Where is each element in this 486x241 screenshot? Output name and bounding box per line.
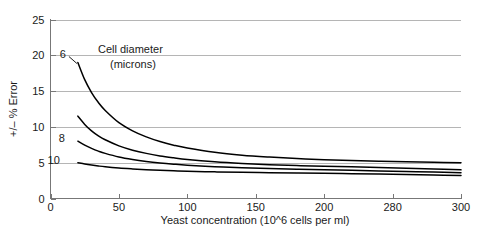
x-tick-marks-group: [52, 194, 462, 199]
y-tick-label-10: 10: [32, 121, 44, 133]
x-tick-labels-group: 050100150200280300: [47, 201, 470, 213]
curve-6: [78, 62, 461, 162]
series-label-6: 6: [60, 48, 66, 60]
chart-figure: 050100150200280300 0510152025 6810 Yeast…: [0, 0, 486, 241]
x-axis-title: Yeast concentration (10^6 cells per ml): [161, 214, 350, 226]
y-tick-label-20: 20: [32, 49, 44, 61]
x-tick-label-300: 300: [452, 201, 470, 213]
x-tick-label-280: 280: [383, 201, 401, 213]
x-tick-label-100: 100: [178, 201, 196, 213]
gridlines-group: [51, 21, 462, 164]
cell-diameter-annotation: Cell diameter (microns): [98, 43, 163, 70]
x-tick-label-150: 150: [247, 201, 265, 213]
cell-diameter-annotation-line2: (microns): [110, 58, 156, 70]
x-tick-label-50: 50: [113, 201, 125, 213]
x-tick-label-200: 200: [315, 201, 333, 213]
y-tick-label-25: 25: [32, 14, 44, 26]
chart-svg: 050100150200280300 0510152025 6810 Yeast…: [0, 0, 486, 241]
y-axis-title: +/– % Error: [7, 81, 19, 137]
y-tick-label-0: 0: [38, 193, 44, 205]
cell-diameter-annotation-line1: Cell diameter: [98, 43, 163, 55]
series-label-8b: 8: [59, 132, 65, 144]
y-tick-label-5: 5: [38, 157, 44, 169]
series-label-10: 10: [48, 154, 60, 166]
y-tick-labels-group: 0510152025: [32, 14, 44, 205]
series-labels-group: 6810: [48, 48, 77, 165]
curves-group: [78, 62, 461, 175]
y-tick-marks-group: [51, 21, 56, 200]
series-label-6-leader-line: [69, 57, 77, 64]
y-tick-label-15: 15: [32, 85, 44, 97]
x-tick-label-0: 0: [47, 201, 53, 213]
